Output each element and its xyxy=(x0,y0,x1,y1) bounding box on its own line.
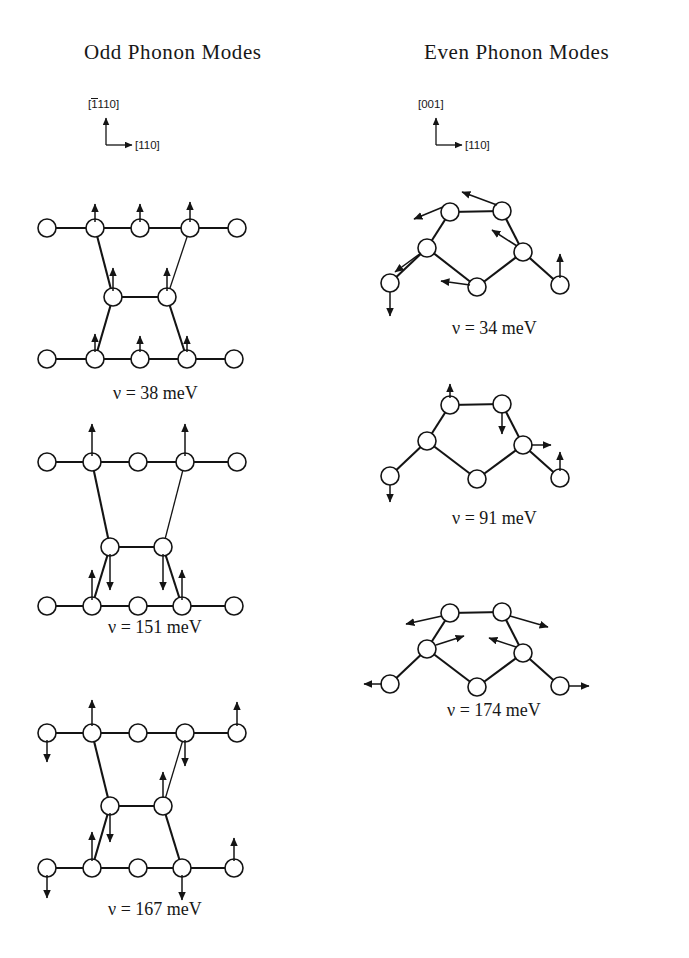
atom xyxy=(514,644,532,662)
atom xyxy=(38,597,56,615)
atom xyxy=(381,467,399,485)
atom xyxy=(441,604,459,622)
atom xyxy=(228,724,246,742)
atom xyxy=(101,538,119,556)
atom xyxy=(225,350,243,368)
atom xyxy=(38,350,56,368)
panel-even-3-structure xyxy=(364,603,589,696)
atom xyxy=(514,436,532,454)
panel-odd-2-structure xyxy=(38,424,246,615)
atom xyxy=(468,470,486,488)
atom xyxy=(225,859,243,877)
atom xyxy=(83,724,101,742)
atom xyxy=(129,859,147,877)
atom xyxy=(154,797,172,815)
atom xyxy=(468,678,486,696)
atom xyxy=(468,278,486,296)
panel-odd-3-structure xyxy=(38,700,246,900)
atom xyxy=(225,597,243,615)
atom xyxy=(418,640,436,658)
panel-even-2-structure xyxy=(381,384,569,502)
atom xyxy=(173,859,191,877)
atom xyxy=(38,219,56,237)
atom xyxy=(493,395,511,413)
atom xyxy=(551,276,569,294)
atom xyxy=(381,274,399,292)
atom xyxy=(129,453,147,471)
atom xyxy=(418,239,436,257)
atom xyxy=(176,724,194,742)
atom xyxy=(86,350,104,368)
atom xyxy=(551,677,569,695)
atom xyxy=(441,203,459,221)
axis-cross-right xyxy=(436,118,462,145)
atom xyxy=(551,469,569,487)
atom xyxy=(38,453,56,471)
atom xyxy=(38,859,56,877)
figure-vector-layer xyxy=(0,0,689,958)
atom xyxy=(38,724,56,742)
phonon-mode-figure: Odd Phonon Modes Even Phonon Modes [1110… xyxy=(0,0,689,958)
atom xyxy=(129,597,147,615)
atom xyxy=(154,538,172,556)
axis-cross-left xyxy=(106,118,132,145)
atom xyxy=(129,724,147,742)
atom xyxy=(418,432,436,450)
panel-even-1-structure xyxy=(381,192,569,316)
atom xyxy=(228,453,246,471)
panel-odd-1-structure xyxy=(38,202,246,368)
atom xyxy=(131,350,149,368)
atom xyxy=(83,859,101,877)
atom xyxy=(441,396,459,414)
atom xyxy=(381,675,399,693)
atom xyxy=(493,603,511,621)
atom xyxy=(178,350,196,368)
atom xyxy=(101,797,119,815)
atom xyxy=(228,219,246,237)
